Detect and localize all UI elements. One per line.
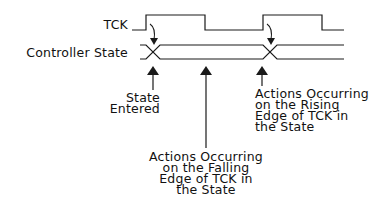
falling-edge-line-4: the State (130, 184, 282, 195)
tck-label: TCK (96, 19, 128, 30)
tck-waveform (132, 15, 344, 30)
state-entered-pointer (147, 66, 159, 90)
controller-state-label: Controller State (14, 47, 128, 58)
falling-edge-pointer (200, 66, 212, 148)
arrowhead-small-2 (267, 38, 275, 45)
edge-to-transition-arrow-1 (150, 24, 155, 40)
state-entered-line-2: Entered (100, 103, 160, 114)
arrowhead-small-1 (150, 38, 158, 45)
controller-state-waveform (140, 45, 344, 59)
edge-to-transition-arrow-2 (267, 24, 272, 40)
state-entered-annotation: State Entered (100, 92, 160, 114)
rising-edge-pointer (256, 66, 268, 86)
falling-edge-annotation: Actions Occurring on the Falling Edge of… (130, 151, 282, 195)
rising-edge-annotation: Actions Occurring on the Rising Edge of … (255, 88, 385, 132)
